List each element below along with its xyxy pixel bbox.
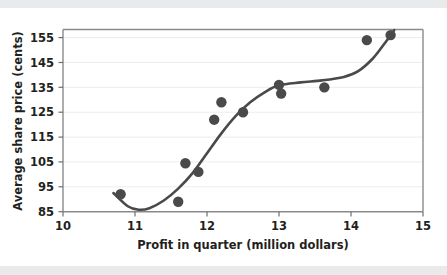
plot-area-background (63, 30, 423, 212)
data-point (385, 30, 395, 40)
data-point (216, 97, 226, 107)
scatter-chart: 155 145 135 125 115 105 95 85 10 11 12 1… (0, 0, 447, 275)
data-point (209, 114, 219, 124)
data-point (115, 189, 125, 199)
x-tick-marks (63, 212, 423, 217)
y-tick-label: 105 (30, 155, 54, 169)
y-tick-label: 125 (30, 105, 54, 119)
data-point (274, 80, 284, 90)
x-tick-label: 15 (415, 219, 431, 233)
data-point (180, 158, 190, 168)
x-tick-label: 12 (199, 219, 215, 233)
data-point (238, 107, 248, 117)
x-tick-label: 14 (343, 219, 359, 233)
y-axis-title: Average share price (cents) (11, 31, 25, 211)
x-tick-label: 11 (127, 219, 143, 233)
x-axis-title: Profit in quarter (million dollars) (137, 238, 349, 252)
y-tick-label: 155 (30, 31, 54, 45)
data-point (362, 35, 372, 45)
x-tick-label: 10 (55, 219, 71, 233)
y-tick-label: 135 (30, 81, 54, 95)
y-tick-label: 95 (38, 180, 54, 194)
data-point (193, 167, 203, 177)
data-point (276, 88, 286, 98)
y-tick-label: 145 (30, 56, 54, 70)
data-point (319, 82, 329, 92)
x-tick-labels: 10 11 12 13 14 15 (55, 219, 431, 233)
y-tick-label: 85 (38, 205, 54, 219)
figure-root: 155 145 135 125 115 105 95 85 10 11 12 1… (0, 0, 447, 275)
x-tick-label: 13 (271, 219, 287, 233)
y-tick-labels: 155 145 135 125 115 105 95 85 (30, 31, 54, 219)
data-point (173, 197, 183, 207)
y-tick-label: 115 (30, 130, 54, 144)
